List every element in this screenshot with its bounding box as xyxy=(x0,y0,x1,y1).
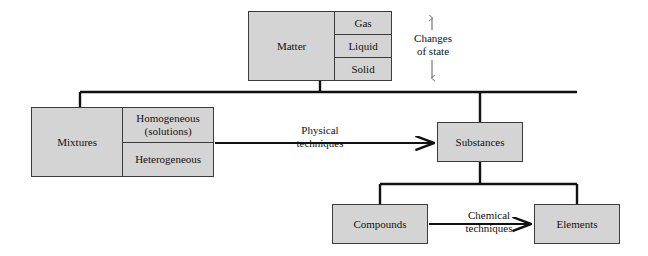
node-compounds[interactable]: Compounds xyxy=(332,204,428,244)
label-physical-techniques: Physical techniques xyxy=(272,124,368,150)
node-matter[interactable]: Matter Gas Liquid Solid xyxy=(248,11,392,81)
matter-classification-diagram: Matter Gas Liquid Solid Mixtures Homogen… xyxy=(0,0,648,256)
label-changes-of-state: Changes of state xyxy=(396,32,470,58)
label-chemical-techniques: Chemical techniques xyxy=(443,209,535,235)
node-mixtures[interactable]: Mixtures Homogeneous (solutions) Heterog… xyxy=(31,107,214,177)
edge-substances-to-children xyxy=(380,162,577,204)
node-homogeneous[interactable]: Homogeneous (solutions) xyxy=(123,108,213,142)
node-state-liquid[interactable]: Liquid xyxy=(335,34,391,57)
node-matter-label: Matter xyxy=(249,12,334,80)
node-state-solid[interactable]: Solid xyxy=(335,57,391,80)
node-mixtures-label: Mixtures xyxy=(32,108,122,176)
mixtures-types-column: Homogeneous (solutions) Heterogeneous xyxy=(122,108,213,176)
matter-states-column: Gas Liquid Solid xyxy=(334,12,391,80)
node-state-gas[interactable]: Gas xyxy=(335,12,391,34)
node-elements[interactable]: Elements xyxy=(534,204,620,244)
node-substances[interactable]: Substances xyxy=(437,122,523,162)
node-heterogeneous[interactable]: Heterogeneous xyxy=(123,142,213,177)
